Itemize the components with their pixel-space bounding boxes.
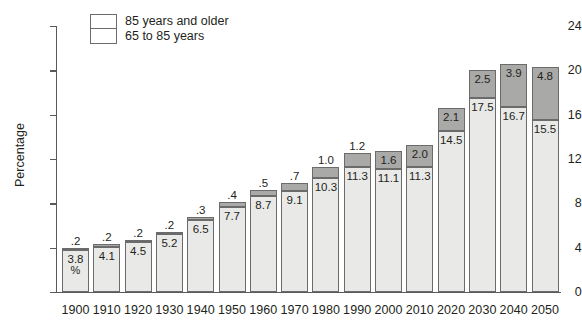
- bar-segment-85-and-older-2050: 4.8: [532, 67, 559, 120]
- bar-value-65-to-85-1930: 5.2: [157, 237, 182, 249]
- x-tick-label-1930: 1930: [153, 303, 186, 317]
- bar-segment-85-and-older-1910: [93, 244, 120, 246]
- chart-container: Percentage 04812162024 85 years and olde…: [0, 0, 582, 327]
- x-tick-label-2040: 2040: [497, 303, 530, 317]
- bar-2020: 14.52.1: [438, 108, 465, 292]
- bar-value-65-to-85-1950: 7.7: [220, 210, 245, 222]
- bar-segment-65-to-85-2040: 16.7: [500, 107, 527, 292]
- bar-value-85-and-older-1980: 1.0: [306, 154, 345, 166]
- bar-value-65-to-85-1910: 4.1: [94, 250, 119, 262]
- bar-value-65-to-85-1980: 10.3: [313, 181, 338, 193]
- bar-value-85-and-older-1940: .3: [181, 204, 220, 216]
- bar-segment-85-and-older-2040: 3.9: [500, 64, 527, 107]
- bar-segment-65-to-85-1900: 3.8%: [62, 250, 89, 292]
- bar-segment-85-and-older-1960: [250, 190, 277, 196]
- bar-value-65-to-85-2020: 14.5: [439, 134, 464, 146]
- bar-segment-85-and-older-2010: 2.0: [406, 145, 433, 167]
- bar-1930: 5.2.2: [156, 232, 183, 292]
- bar-segment-65-to-85-2050: 15.5: [532, 120, 559, 292]
- bar-value-65-to-85-1940: 6.5: [188, 223, 213, 235]
- bar-segment-65-to-85-1980: 10.3: [312, 178, 339, 292]
- x-tick-label-1990: 1990: [341, 303, 374, 317]
- bar-segment-85-and-older-2020: 2.1: [438, 108, 465, 131]
- bar-value-65-to-85-2050: 15.5: [533, 123, 558, 135]
- bar-value-65-to-85-2040: 16.7: [501, 110, 526, 122]
- bar-segment-65-to-85-1920: 4.5: [125, 242, 152, 292]
- bar-segment-65-to-85-1930: 5.2: [156, 234, 183, 292]
- bar-value-65-to-85-1990: 11.3: [345, 170, 370, 182]
- percent-sign: %: [63, 265, 88, 277]
- bar-value-85-and-older-2010: 2.0: [407, 148, 432, 160]
- bar-segment-65-to-85-1940: 6.5: [187, 220, 214, 292]
- bar-segment-85-and-older-1980: [312, 167, 339, 178]
- bar-segment-85-and-older-2030: 2.5: [469, 70, 496, 98]
- x-tick-label-1900: 1900: [59, 303, 92, 317]
- bar-1970: 9.1.7: [281, 183, 308, 292]
- x-tick-label-1970: 1970: [278, 303, 311, 317]
- bar-1920: 4.5.2: [125, 240, 152, 292]
- x-tick-label-2030: 2030: [466, 303, 499, 317]
- bar-segment-65-to-85-1910: 4.1: [93, 247, 120, 292]
- bar-1940: 6.5.3: [187, 217, 214, 292]
- bar-value-85-and-older-2040: 3.9: [501, 67, 526, 79]
- bar-segment-65-to-85-1950: 7.7: [219, 207, 246, 292]
- x-tick-label-2020: 2020: [435, 303, 468, 317]
- bar-segment-65-to-85-1970: 9.1: [281, 191, 308, 292]
- bar-segment-65-to-85-2020: 14.5: [438, 131, 465, 292]
- bar-segment-85-and-older-1950: [219, 202, 246, 206]
- x-tick-label-1920: 1920: [122, 303, 155, 317]
- x-tick-label-1940: 1940: [184, 303, 217, 317]
- bar-1990: 11.31.2: [344, 153, 371, 292]
- bar-segment-85-and-older-1900: [62, 248, 89, 250]
- bar-1950: 7.7.4: [219, 202, 246, 292]
- bar-2010: 11.32.0: [406, 145, 433, 292]
- bar-1910: 4.1.2: [93, 244, 120, 292]
- bar-segment-65-to-85-2000: 11.1: [375, 169, 402, 292]
- bar-value-85-and-older-2050: 4.8: [533, 70, 558, 82]
- bar-segment-85-and-older-1970: [281, 183, 308, 191]
- bar-value-65-to-85-2030: 17.5: [470, 101, 495, 113]
- bar-2050: 15.54.8: [532, 67, 559, 292]
- x-tick-label-2010: 2010: [403, 303, 436, 317]
- bar-segment-85-and-older-2000: 1.6: [375, 151, 402, 169]
- bar-value-85-and-older-1950: .4: [213, 189, 252, 201]
- bar-value-65-to-85-1970: 9.1: [282, 194, 307, 206]
- bar-1960: 8.7.5: [250, 190, 277, 292]
- plot-area: 3.8%.219004.1.219104.5.219205.2.219306.5…: [0, 0, 582, 327]
- bar-value-65-to-85-2010: 11.3: [407, 170, 432, 182]
- x-tick-label-1950: 1950: [216, 303, 249, 317]
- bar-2000: 11.11.6: [375, 151, 402, 292]
- bar-segment-85-and-older-1930: [156, 232, 183, 234]
- bar-segment-85-and-older-1920: [125, 240, 152, 242]
- bar-segment-85-and-older-1990: [344, 153, 371, 166]
- bar-segment-65-to-85-1960: 8.7: [250, 196, 277, 292]
- bar-value-85-and-older-1970: .7: [275, 170, 314, 182]
- bar-1980: 10.31.0: [312, 167, 339, 292]
- bar-2030: 17.52.5: [469, 70, 496, 292]
- bar-value-85-and-older-2000: 1.6: [376, 154, 401, 166]
- bar-value-85-and-older-2020: 2.1: [439, 111, 464, 123]
- bar-value-85-and-older-2030: 2.5: [470, 73, 495, 85]
- bar-value-85-and-older-1930: .2: [150, 219, 189, 231]
- x-tick-label-1960: 1960: [247, 303, 280, 317]
- bar-segment-85-and-older-1940: [187, 217, 214, 220]
- bar-segment-65-to-85-1990: 11.3: [344, 167, 371, 292]
- bar-value-65-to-85-1920: 4.5: [126, 245, 151, 257]
- x-tick-label-1980: 1980: [309, 303, 342, 317]
- bar-segment-65-to-85-2010: 11.3: [406, 167, 433, 292]
- bar-2040: 16.73.9: [500, 64, 527, 292]
- bar-value-65-to-85-1960: 8.7: [251, 199, 276, 211]
- x-tick-label-2050: 2050: [529, 303, 562, 317]
- x-tick-label-1910: 1910: [90, 303, 123, 317]
- bar-value-65-to-85-2000: 11.1: [376, 172, 401, 184]
- x-tick-label-2000: 2000: [372, 303, 405, 317]
- bar-value-65-to-85-1900: 3.8%: [63, 253, 88, 277]
- bar-value-85-and-older-1990: 1.2: [338, 140, 377, 152]
- bar-1900: 3.8%.2: [62, 248, 89, 292]
- bar-segment-65-to-85-2030: 17.5: [469, 98, 496, 292]
